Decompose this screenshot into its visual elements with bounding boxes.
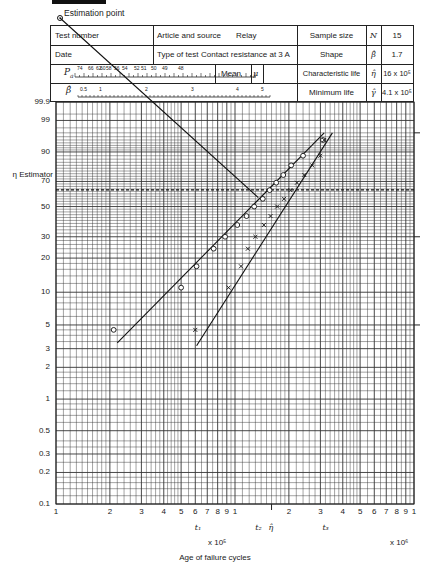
beta-scale-label: 3 — [191, 86, 194, 92]
y-tick-label: 0.5 — [10, 426, 50, 435]
y-tick-label: 99.9 — [10, 97, 50, 106]
pa-scale-label: 66 — [88, 65, 94, 71]
pa-scale-label: 52 — [134, 65, 140, 71]
beta-scale-label: 1 — [99, 86, 102, 92]
y-tick-label: 10 — [10, 287, 50, 296]
x-annotation: t₁ — [195, 523, 201, 532]
y-tick-label: 90 — [10, 147, 50, 156]
y-tick-label: 0.1 — [10, 499, 50, 508]
x-tick-label: 4 — [157, 507, 171, 516]
y-tick-label: 0.3 — [10, 449, 50, 458]
beta-scale-label: 4 — [236, 86, 239, 92]
weibull-chart — [0, 0, 430, 571]
y-tick-label: 2 — [10, 362, 50, 371]
pa-scale-label: 74 — [77, 65, 83, 71]
x-tick-label: 5 — [353, 507, 367, 516]
y-tick-label: 50 — [10, 202, 50, 211]
pa-scale-label: 60 — [100, 65, 106, 71]
pa-scale-label: 58 — [106, 65, 112, 71]
y-tick-label: 99 — [10, 115, 50, 124]
beta-scale-label: 0.5 — [80, 86, 87, 92]
pa-scale-label: 49 — [162, 65, 168, 71]
y-tick-label: 0.2 — [10, 467, 50, 476]
x-annotation: η̂ — [269, 523, 274, 532]
x-annotation: t₂ — [255, 523, 261, 532]
pa-scale-label: 50 — [151, 65, 157, 71]
x-tick-label: 1 — [228, 507, 242, 516]
x-annotation: t₃ — [322, 523, 328, 532]
beta-scale-label: 2 — [145, 86, 148, 92]
x-tick-label: 3 — [134, 507, 148, 516]
y-tick-label: 20 — [10, 253, 50, 262]
x-tick-label: 3 — [313, 507, 327, 516]
x-tick-label: 4 — [336, 507, 350, 516]
y-tick-label: 30 — [10, 232, 50, 241]
x-tick-label: 1 — [407, 507, 421, 516]
x-tick-label: 1 — [49, 507, 63, 516]
x-tick-label: 2 — [103, 507, 117, 516]
x-tick-label: 2 — [282, 507, 296, 516]
pa-scale-label: 48 — [178, 65, 184, 71]
y-tick-label: 70 — [10, 176, 50, 185]
y-tick-label: 1 — [10, 394, 50, 403]
pa-scale-label: 54 — [122, 65, 128, 71]
x-tick-label: 5 — [174, 507, 188, 516]
y-tick-label: 3 — [10, 344, 50, 353]
pa-scale-label: 51 — [141, 65, 147, 71]
pa-scale-label: 56 — [114, 65, 120, 71]
beta-scale-label: 5 — [261, 86, 264, 92]
y-tick-label: 5 — [10, 320, 50, 329]
